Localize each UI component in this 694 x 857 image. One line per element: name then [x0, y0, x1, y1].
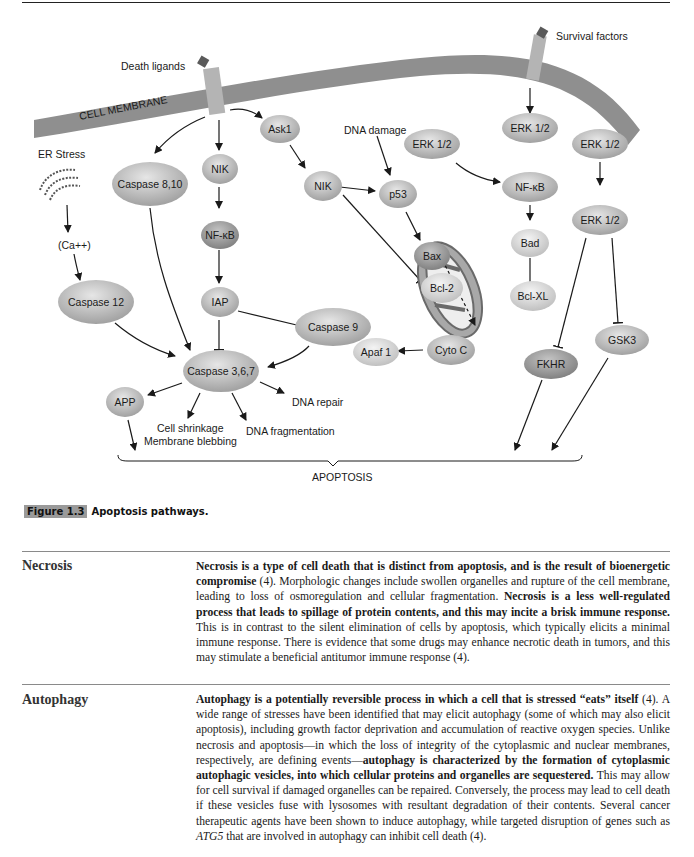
svg-text:Apaf 1: Apaf 1 — [361, 346, 392, 358]
node-bcl-xl: Bcl-XL — [510, 281, 556, 311]
node-bad: Bad — [511, 229, 549, 257]
node-erk-d: ERK 1/2 — [572, 205, 628, 235]
section-body-necrosis: Necrosis is a type of cell death that is… — [196, 559, 670, 665]
node-caspase-12: Caspase 12 — [58, 280, 134, 324]
svg-text:Bax: Bax — [423, 250, 442, 262]
apoptosis-label: APOPTOSIS — [312, 471, 373, 483]
node-gsk3: GSK3 — [595, 325, 649, 355]
node-iap: IAP — [201, 287, 239, 317]
node-nfkb-left: NF-κB — [201, 221, 239, 249]
section-divider — [22, 684, 670, 685]
node-apaf1: Apaf 1 — [353, 338, 399, 366]
svg-text:NIK: NIK — [211, 163, 229, 175]
svg-text:IAP: IAP — [212, 296, 229, 308]
svg-text:Caspase 12: Caspase 12 — [68, 296, 124, 308]
endoplasmic-reticulum-icon — [40, 170, 80, 200]
node-cyto-c: Cyto C — [427, 335, 475, 365]
apoptosis-brace — [118, 455, 582, 466]
cell-shrinkage-label: Cell shrinkage — [157, 422, 224, 434]
node-bax: Bax — [414, 242, 450, 270]
node-nfkb-right: NF-κB — [502, 172, 558, 202]
figure-number: Figure 1.3 — [24, 505, 87, 518]
section-heading-autophagy: Autophagy — [22, 692, 88, 708]
svg-text:ERK 1/2: ERK 1/2 — [580, 214, 619, 226]
dna-damage-label: DNA damage — [344, 124, 407, 136]
svg-text:ERK 1/2: ERK 1/2 — [580, 138, 619, 150]
node-nik-mid: NIK — [304, 171, 342, 201]
section-body-autophagy: Autophagy is a potentially reversible pr… — [196, 692, 670, 844]
node-nik-left: NIK — [202, 154, 238, 184]
svg-text:NF-κB: NF-κB — [515, 181, 545, 193]
node-caspase-9: Caspase 9 — [295, 308, 371, 346]
node-app: APP — [106, 387, 144, 417]
svg-text:ERK 1/2: ERK 1/2 — [412, 138, 451, 150]
node-p53: p53 — [379, 180, 417, 208]
er-stress-label: ER Stress — [38, 148, 85, 160]
death-ligands-label: Death ligands — [121, 60, 185, 72]
svg-text:p53: p53 — [389, 188, 407, 200]
svg-text:Bcl-XL: Bcl-XL — [518, 290, 549, 302]
section-divider — [22, 551, 670, 552]
node-ask1: Ask1 — [260, 115, 300, 143]
svg-text:ERK 1/2: ERK 1/2 — [510, 122, 549, 134]
section-heading-necrosis: Necrosis — [22, 558, 72, 574]
calcium-label: (Ca++) — [58, 239, 91, 251]
svg-text:Cyto C: Cyto C — [435, 344, 468, 356]
death-ligand — [197, 56, 209, 68]
node-caspase-3-6-7: Caspase 3,6,7 — [183, 350, 259, 392]
svg-text:Caspase 9: Caspase 9 — [308, 321, 358, 333]
svg-text:GSK3: GSK3 — [608, 334, 636, 346]
svg-text:NIK: NIK — [314, 180, 332, 192]
svg-text:NF-κB: NF-κB — [205, 229, 235, 241]
svg-text:FKHR: FKHR — [537, 358, 566, 370]
svg-text:Ask1: Ask1 — [268, 123, 292, 135]
node-caspase-8-10: Caspase 8,10 — [112, 162, 188, 206]
node-erk-a: ERK 1/2 — [404, 129, 460, 159]
membrane-blebbing-label: Membrane blebbing — [144, 435, 237, 447]
figure-caption-text: Apoptosis pathways. — [91, 506, 208, 517]
node-bcl2: Bcl-2 — [421, 273, 463, 303]
node-erk-b: ERK 1/2 — [502, 113, 558, 143]
svg-text:Caspase 3,6,7: Caspase 3,6,7 — [187, 365, 255, 377]
svg-text:Bcl-2: Bcl-2 — [430, 282, 454, 294]
apoptosis-pathway-figure: CELL MEMBRANE Death ligands Survival fac… — [0, 0, 694, 500]
node-fkhr: FKHR — [524, 349, 578, 379]
svg-text:Caspase 8,10: Caspase 8,10 — [118, 178, 183, 190]
survival-factors-label: Survival factors — [556, 30, 628, 42]
svg-text:Bad: Bad — [521, 237, 540, 249]
node-erk-c: ERK 1/2 — [572, 129, 628, 159]
dna-fragmentation-label: DNA fragmentation — [246, 425, 335, 437]
svg-text:APP: APP — [114, 396, 135, 408]
figure-caption: Figure 1.3Apoptosis pathways. — [24, 506, 209, 517]
dna-repair-label: DNA repair — [292, 396, 344, 408]
